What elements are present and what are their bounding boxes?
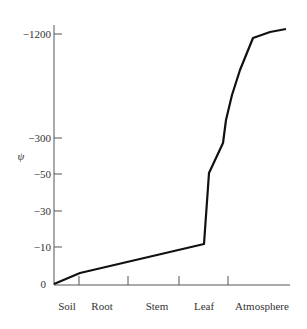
x-category-label: Atmosphere: [235, 300, 289, 312]
y-tick-label: −50: [34, 168, 52, 180]
water-potential-chart: −1200−300−50−30−100 SoilRootStemLeafAtmo…: [0, 0, 307, 329]
y-tick-label: −30: [34, 205, 52, 217]
y-tick-label: −10: [34, 241, 52, 253]
x-category-label: Stem: [146, 300, 169, 312]
y-ticks: −1200−300−50−30−100: [23, 28, 62, 290]
y-tick-label: −1200: [23, 28, 52, 40]
y-tick-label: −300: [28, 132, 51, 144]
x-category-label: Soil: [58, 300, 76, 312]
water-potential-line: [54, 29, 286, 284]
x-category-label: Root: [91, 300, 112, 312]
y-axis-label: ψ: [18, 150, 25, 162]
x-ticks: [79, 276, 228, 285]
y-tick-label: 0: [41, 278, 47, 290]
x-category-labels: SoilRootStemLeafAtmosphere: [58, 300, 289, 312]
x-category-label: Leaf: [194, 300, 214, 312]
